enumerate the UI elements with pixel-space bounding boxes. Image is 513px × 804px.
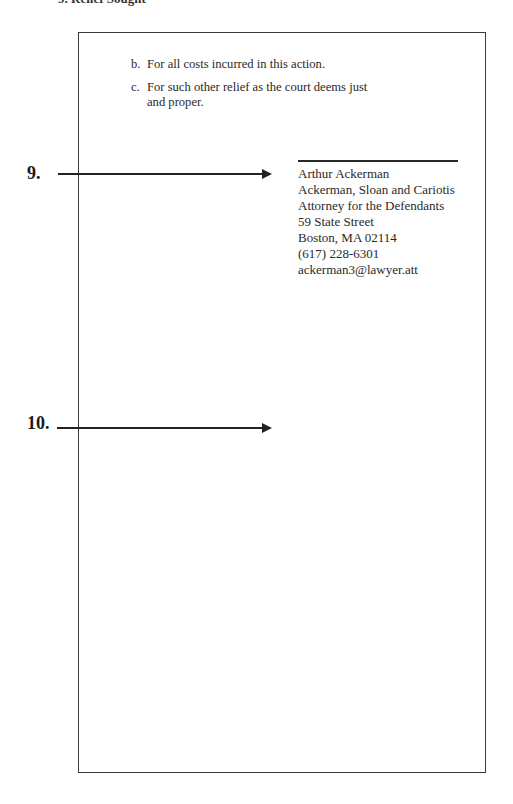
law-firm: Ackerman, Sloan and Cariotis [298,182,455,198]
arrow-right-icon [57,427,270,429]
signature-line [298,160,458,162]
cut-off-heading: 9. Relief Sought [58,0,146,7]
list-marker: b. [131,57,140,72]
relief-item-text: For all costs incurred in this action. [147,57,391,72]
list-marker: c. [131,80,140,95]
street-address: 59 State Street [298,214,455,230]
relief-item-b: b. For all costs incurred in this action… [131,57,391,72]
signature-block: Arthur Ackerman Ackerman, Sloan and Cari… [298,166,455,278]
callout-number-10: 10. [27,413,50,434]
relief-item-text: For such other relief as the court deems… [147,80,376,109]
callout-number-9: 9. [27,163,41,184]
arrow-right-icon [58,173,270,175]
attorney-role: Attorney for the Defendants [298,198,455,214]
attorney-name: Arthur Ackerman [298,166,455,182]
document-page-frame [78,32,486,773]
email-address: ackerman3@lawyer.att [298,262,455,278]
city-state-zip: Boston, MA 02114 [298,230,455,246]
relief-item-c: c. For such other relief as the court de… [131,80,376,109]
phone-number: (617) 228-6301 [298,246,455,262]
